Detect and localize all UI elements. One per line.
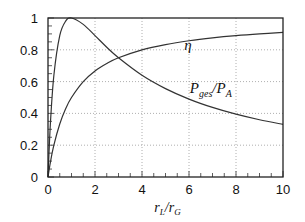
xlabel-sub2: G: [174, 207, 181, 217]
x-axis-label: rL/rG: [154, 200, 181, 217]
y-tick-label: 1: [31, 11, 38, 26]
p-label-sub1: ges: [199, 88, 212, 99]
x-tick-label: 2: [91, 182, 98, 197]
x-tick-label: 8: [232, 182, 239, 197]
curve-label-eta: η: [184, 37, 191, 53]
x-tick-label: 10: [276, 182, 290, 197]
curve-eta: [48, 32, 283, 177]
curve-label-p-ges-p-a: Pges/PA: [189, 80, 233, 99]
p-label-main1: P: [189, 80, 199, 96]
curve-p-ges-p-a: [48, 18, 283, 177]
minor-ticks: [48, 18, 283, 177]
chart: 024681000.20.40.60.81 η Pges/PA rL/rG: [0, 0, 305, 222]
x-tick-label: 6: [185, 182, 192, 197]
p-label-main2: P: [215, 80, 225, 96]
y-tick-label: 0.2: [20, 138, 38, 153]
x-tick-label: 0: [44, 182, 51, 197]
y-tick-label: 0.6: [20, 75, 38, 90]
y-tick-label: 0.8: [20, 43, 38, 58]
x-tick-label: 4: [138, 182, 145, 197]
y-tick-label: 0: [31, 170, 38, 185]
tick-labels: 024681000.20.40.60.81: [20, 11, 290, 197]
grid: [48, 18, 283, 177]
y-tick-label: 0.4: [20, 106, 38, 121]
curves: [48, 18, 283, 177]
plot-frame: [48, 18, 283, 177]
p-label-sub2: A: [225, 88, 233, 99]
